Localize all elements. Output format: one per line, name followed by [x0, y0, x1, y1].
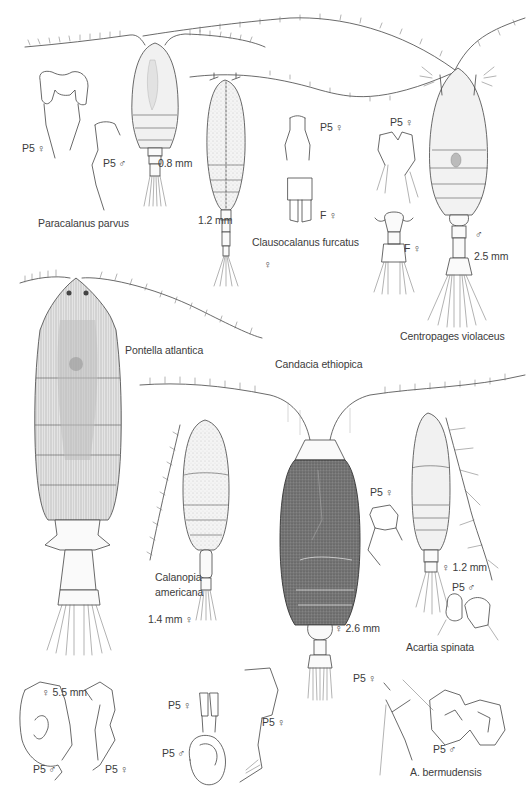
pontella-name-label: Pontella atlantica: [125, 344, 203, 356]
calanopia-americana-drawing: [147, 420, 229, 785]
paracalanus-p5-female-label: P5 ♀: [22, 142, 45, 154]
calanopia-name-line1: Calanopia: [155, 571, 201, 583]
clausocalanus-size-label: 1.2 mm: [198, 214, 232, 226]
calanopia-name-line2: americana: [155, 586, 203, 598]
bermudensis-p5-female-label: P5 ♀: [353, 672, 376, 684]
clausocalanus-sex-label: ♀: [264, 258, 272, 270]
centropages-name-label: Centropages violaceus: [400, 330, 505, 342]
bermudensis-p5-male-label: P5 ♂: [433, 743, 456, 755]
acartia-spinata-size-label: ♀ 1.2 mm: [442, 561, 487, 573]
clausocalanus-p5-female-label: P5 ♀: [320, 121, 343, 133]
candacia-p5-female-label-b: P5 ♀: [262, 716, 285, 728]
acartia-spinata-name-label: Acartia spinata: [406, 641, 474, 653]
centropages-size-label: 2.5 mm: [474, 250, 508, 262]
calanopia-p5-female-label: P5 ♀: [168, 699, 191, 711]
candacia-size-label: ♀ 2.6 mm: [335, 622, 380, 634]
paracalanus-name-label: Paracalanus parvus: [38, 217, 129, 229]
clausocalanus-furcatus-drawing: [207, 73, 312, 286]
centropages-f-female-label: F ♀: [404, 242, 421, 254]
clausocalanus-f-female-label: F ♀: [320, 209, 337, 221]
bermudensis-name-label: A. bermudensis: [410, 766, 482, 778]
pontella-p5-female-label: P5 ♀: [105, 763, 128, 775]
centropages-violaceus-drawing: [143, 14, 525, 327]
calanopia-p5-male-label: P5 ♂: [162, 747, 185, 759]
paracalanus-size-label: 0.8 mm: [158, 157, 192, 169]
candacia-p5-female-label-a: P5 ♀: [370, 486, 393, 498]
acartia-spinata-p5-male-label: P5 ♂: [452, 581, 475, 593]
pontella-size-label: ♀ 5.5 mm: [42, 686, 87, 698]
candacia-name-label: Candacia ethiopica: [275, 358, 363, 370]
pontella-p5-male-label: P5 ♂: [33, 763, 56, 775]
paracalanus-p5-male-label: P5 ♂: [103, 157, 126, 169]
acartia-spinata-drawing: [412, 413, 498, 640]
acartia-bermudensis-drawing: [380, 680, 505, 775]
centropages-sex-label: ♂: [475, 228, 483, 240]
calanopia-size-label: 1.4 mm ♀: [148, 613, 193, 625]
copepod-plate: Paracalanus parvus 0.8 mm P5 ♀ P5 ♂ 1.2 …: [0, 0, 530, 801]
centropages-p5-female-label: P5 ♀: [390, 116, 413, 128]
illustration-canvas: [0, 0, 530, 801]
clausocalanus-name-label: Clausocalanus furcatus: [252, 236, 359, 248]
